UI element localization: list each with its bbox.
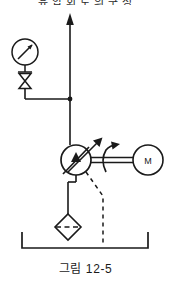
hydraulic-circuit-diagram: M — [0, 0, 171, 285]
pressure-gauge-icon — [12, 39, 38, 72]
rotation-arrow-icon — [103, 142, 120, 173]
variable-displacement-pump-icon — [61, 138, 103, 183]
junction-dot-icon — [68, 97, 73, 102]
suction-line — [68, 182, 76, 214]
motor-label: M — [144, 156, 152, 166]
arrow-up-icon — [66, 13, 74, 25]
shutoff-valve-icon — [18, 72, 32, 89]
figure-root: 유 압 회 로 의 구 성 — [0, 0, 171, 285]
electric-motor-icon: M — [133, 145, 163, 175]
suction-filter-icon — [55, 214, 81, 240]
drain-line-icon — [86, 172, 103, 243]
reservoir-tank-icon — [22, 232, 148, 248]
gauge-branch-line — [25, 89, 72, 102]
drive-shaft-icon — [90, 158, 134, 163]
figure-caption: 그림 12-5 — [0, 259, 171, 276]
main-pressure-line — [66, 13, 74, 145]
